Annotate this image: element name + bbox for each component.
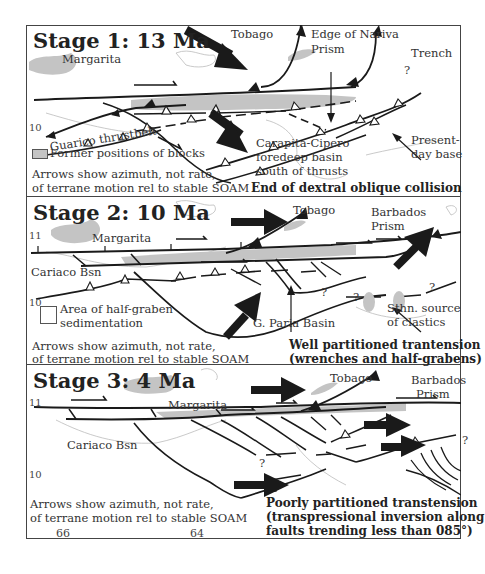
panel-stage-3: Stage 3: 4 Ma 11 Margarita Tobago Barbad… xyxy=(26,365,461,539)
label-tobago: Tobago xyxy=(330,373,372,385)
label-barbados-2: Prism xyxy=(416,389,450,401)
question-mark: ? xyxy=(353,292,359,304)
label-barbados: Barbados xyxy=(411,375,466,387)
label-sthn-source-2: of clastics xyxy=(387,317,445,329)
label-tobago: Tobago xyxy=(293,205,335,217)
question-mark: ? xyxy=(404,65,410,77)
note-arrows-2: of terrane motion rel to stable SOAM xyxy=(30,511,247,525)
label-carapita-3: south of thrusts xyxy=(256,166,348,178)
label-barbados: Barbados xyxy=(371,207,426,219)
label-cariaco: Cariaco Bsn xyxy=(31,267,101,279)
stage-3-caption-3: faults trending less than 085°) xyxy=(266,524,473,539)
label-cariaco: Cariaco Bsn xyxy=(67,440,137,452)
latitude-11: 11 xyxy=(29,231,42,241)
latitude-10: 10 xyxy=(29,470,42,480)
stage-1-title: Stage 1: 13 Ma xyxy=(33,30,210,51)
label-paria: G. Paria Basin xyxy=(253,318,335,330)
label-margarita: Margarita xyxy=(92,233,151,245)
label-edge-nariva-2: Prism xyxy=(311,44,345,56)
stage-3-caption-2: (transpressional inversion along xyxy=(266,510,484,525)
label-edge-nariva: Edge of Nariva xyxy=(311,29,399,41)
legend-half-graben-2: sedimentation xyxy=(60,318,143,330)
stage-2-title: Stage 2: 10 Ma xyxy=(33,202,210,223)
label-sthn-source: Sthn. source xyxy=(387,303,461,315)
stage-3-title: Stage 3: 4 Ma xyxy=(33,370,195,391)
legend-grey-swatch xyxy=(32,149,48,159)
stage-2-caption: Well partitioned trantension xyxy=(289,338,480,353)
panel-stage-1: Stage 1: 13 Ma Margarita Tobago Edge of … xyxy=(26,25,461,197)
stage-3-caption: Poorly partitioned transtension xyxy=(266,496,477,511)
label-margarita: Margarita xyxy=(168,400,227,412)
question-mark: ? xyxy=(429,282,435,294)
question-mark: ? xyxy=(321,287,327,299)
note-arrows: Arrows show azimuth, not rate, xyxy=(30,497,214,511)
stage-1-caption: End of dextral oblique collision xyxy=(251,181,462,196)
question-mark: ? xyxy=(259,458,265,470)
note-arrows-2: of terrane motion rel to stable SOAM xyxy=(32,181,249,195)
label-barbados-2: Prism xyxy=(371,221,405,233)
legend-half-graben: Area of half-graben xyxy=(60,304,173,316)
longitude-64: 64 xyxy=(190,528,204,539)
coastline xyxy=(176,51,215,67)
label-trench: Trench xyxy=(411,48,452,60)
latitude-10: 10 xyxy=(29,123,42,133)
label-present-day-2: day base xyxy=(411,149,462,161)
legend-former-blocks: Former positions of blocks xyxy=(50,148,205,160)
longitude-66: 66 xyxy=(56,528,70,539)
note-arrows: Arrows show azimuth, not rate, xyxy=(32,167,216,181)
legend-white-swatch xyxy=(40,306,57,324)
label-carapita: Carapita-Cipero xyxy=(256,138,349,150)
label-carapita-2: foredeep basin xyxy=(256,152,343,164)
label-tobago: Tobago xyxy=(231,29,273,41)
label-margarita: Margarita xyxy=(62,54,121,66)
latitude-11: 11 xyxy=(29,398,42,408)
panel-stage-2: Stage 2: 10 Ma 11 Margarita Tobago Barba… xyxy=(26,197,461,365)
question-mark: ? xyxy=(462,435,468,447)
label-present-day: Present- xyxy=(411,135,460,147)
